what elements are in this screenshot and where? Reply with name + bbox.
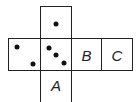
face-left (8, 38, 41, 71)
pip-dot (54, 53, 59, 58)
pip-dot (62, 61, 67, 66)
pip-dot (47, 46, 52, 51)
pip-dot (15, 45, 20, 50)
face-a: A (40, 70, 72, 102)
face-label-b: B (72, 46, 101, 63)
face-b: B (71, 38, 102, 71)
face-top (40, 6, 72, 39)
pip-dot (54, 22, 59, 27)
face-label-c: C (102, 46, 132, 63)
face-label-a: A (41, 77, 71, 94)
face-center (40, 38, 72, 71)
face-c: C (101, 38, 133, 71)
pip-dot (31, 62, 36, 67)
